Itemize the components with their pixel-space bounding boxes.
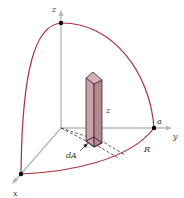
label-column-height: z bbox=[105, 106, 111, 115]
label-x-axis: x bbox=[13, 189, 18, 198]
column-front-face bbox=[86, 78, 94, 147]
y-axis-arrow-icon bbox=[166, 126, 172, 131]
label-z-axis: z bbox=[51, 5, 57, 14]
dA-pointer bbox=[80, 143, 88, 151]
label-area-element: dA bbox=[66, 151, 77, 160]
label-radius-a: a bbox=[157, 117, 162, 126]
point-z-intercept bbox=[59, 21, 63, 25]
volume-column bbox=[86, 72, 102, 147]
point-x-intercept bbox=[19, 172, 23, 176]
z-axis-arrow-icon bbox=[59, 10, 64, 16]
sphere-octant-diagram: z y x z a R dA bbox=[0, 0, 184, 198]
label-y-axis: y bbox=[172, 132, 178, 141]
column-side-face bbox=[94, 80, 102, 147]
point-y-intercept bbox=[152, 126, 156, 130]
label-region-R: R bbox=[143, 145, 150, 154]
